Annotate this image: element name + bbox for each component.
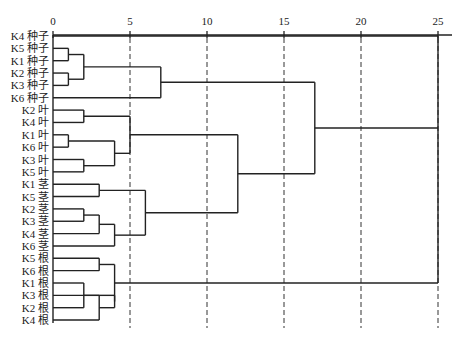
leaf-label: K2 叶 <box>22 104 49 116</box>
leaf-label: K4 叶 <box>22 116 49 128</box>
leaf-label: K5 茎 <box>22 191 49 203</box>
leaf-label: K1 叶 <box>22 129 49 141</box>
gridlines <box>130 38 438 328</box>
x-axis: 0510152025 <box>50 15 452 38</box>
tick-label: 25 <box>433 15 445 27</box>
leaf-labels: K4 种子K5 种子K1 种子K2 种子K3 种子K6 种子K2 叶K4 叶K1… <box>11 29 49 326</box>
leaf-label: K4 根 <box>22 313 49 326</box>
leaf-label: K2 茎 <box>22 203 49 215</box>
leaf-label: K1 根 <box>22 276 49 289</box>
leaf-label: K6 叶 <box>22 141 49 153</box>
tick-label: 0 <box>50 15 56 27</box>
leaf-label: K2 种子 <box>11 66 49 79</box>
dendrogram-chart: 0510152025 K4 种子K5 种子K1 种子K2 种子K3 种子K6 种… <box>0 0 458 340</box>
leaf-label: K3 根 <box>22 288 49 301</box>
tick-label: 5 <box>127 15 133 27</box>
leaf-label: K3 叶 <box>22 154 49 166</box>
leaf-label: K5 叶 <box>22 166 49 178</box>
leaf-label: K1 种子 <box>11 54 49 67</box>
leaf-label: K1 茎 <box>22 178 49 190</box>
tick-label: 20 <box>356 15 368 27</box>
leaf-label: K4 茎 <box>22 228 49 240</box>
leaf-label: K5 种子 <box>11 41 49 54</box>
tick-label: 15 <box>279 15 291 27</box>
dendrogram-links <box>53 35 438 323</box>
leaf-label: K3 种子 <box>11 78 49 91</box>
leaf-label: K6 茎 <box>22 240 49 252</box>
leaf-label: K6 根 <box>22 264 49 277</box>
tick-label: 10 <box>202 15 214 27</box>
leaf-label: K4 种子 <box>11 29 49 42</box>
leaf-label: K3 茎 <box>22 215 49 227</box>
leaf-label: K2 根 <box>22 301 49 314</box>
leaf-label: K6 种子 <box>11 91 49 104</box>
leaf-label: K5 根 <box>22 251 49 264</box>
